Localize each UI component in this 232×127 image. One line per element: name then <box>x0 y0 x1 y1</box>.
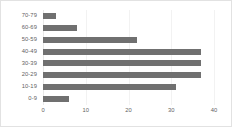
bar-chart: 70-7960-6950-5940-4930-3920-2910-190-9 0… <box>0 0 232 127</box>
plot-area <box>43 10 214 105</box>
bar-row <box>43 58 201 70</box>
bar-30-39 <box>43 60 201 66</box>
y-axis-category-labels: 70-7960-6950-5940-4930-3920-2910-190-9 <box>1 10 39 105</box>
y-axis-label-0-9: 0-9 <box>1 93 37 105</box>
bar-row <box>43 69 201 81</box>
bar-row <box>43 34 137 46</box>
y-axis-label-30-39: 30-39 <box>1 58 37 70</box>
gridline-40 <box>214 10 215 105</box>
x-axis-tick-labels: 010203040 <box>43 108 214 120</box>
y-axis-label-10-19: 10-19 <box>1 81 37 93</box>
bar-row <box>43 10 56 22</box>
bar-row <box>43 93 69 105</box>
bar-10-19 <box>43 84 176 90</box>
bar-0-9 <box>43 96 69 102</box>
x-tick-10: 10 <box>83 108 89 114</box>
x-tick-40: 40 <box>211 108 217 114</box>
bar-20-29 <box>43 72 201 78</box>
bar-row <box>43 46 201 58</box>
bar-50-59 <box>43 37 137 43</box>
y-axis-label-20-29: 20-29 <box>1 69 37 81</box>
bar-60-69 <box>43 25 77 31</box>
bar-40-49 <box>43 49 201 55</box>
y-axis-label-40-49: 40-49 <box>1 46 37 58</box>
y-axis-label-60-69: 60-69 <box>1 22 37 34</box>
x-tick-20: 20 <box>125 108 131 114</box>
bar-70-79 <box>43 13 56 19</box>
x-tick-30: 30 <box>168 108 174 114</box>
bar-series <box>43 10 214 105</box>
bar-row <box>43 81 176 93</box>
bar-row <box>43 22 77 34</box>
y-axis-label-50-59: 50-59 <box>1 34 37 46</box>
y-axis-label-70-79: 70-79 <box>1 10 37 22</box>
x-tick-0: 0 <box>41 108 44 114</box>
